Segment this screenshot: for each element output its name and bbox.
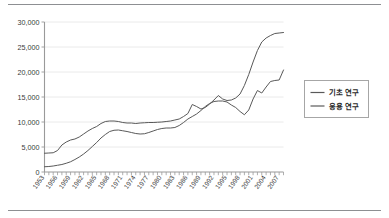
x-axis-tick-label: 1974 [122,174,136,190]
legend-label: 응용 연구 [329,102,360,111]
series-line [45,33,284,154]
x-axis-tick-label: 1977 [135,174,149,190]
x-axis-tick-label: 1956 [44,174,58,190]
y-axis-tick-label: 25,000 [18,43,40,52]
x-axis-tick-label: 1971 [109,174,123,190]
legend-label: 기초 연구 [329,88,360,97]
chart-legend: 기초 연구응용 연구 [305,81,369,118]
y-axis-tick-label: 30,000 [18,18,40,27]
chart-plot-wrapper: 05,00010,00015,00020,00025,00030,000 195… [0,0,389,218]
y-axis-tick-label: 20,000 [18,68,40,77]
legend-box [305,81,369,118]
y-axis-tick-label: 15,000 [18,93,40,102]
x-axis-tick-label: 1968 [96,174,110,190]
y-axis-labels-group: 05,00010,00015,00020,00025,00030,000 [18,18,40,177]
x-axis-tick-label: 1992 [201,174,215,190]
x-axis-tick-label: 1986 [175,174,189,190]
x-axis-tick-label: 1980 [148,174,162,190]
series-line [45,70,284,167]
x-axis-tick-label: 2001 [240,174,254,190]
x-axis-tick-label: 1995 [214,174,228,190]
x-axis-tick-label: 1953 [31,174,45,190]
x-axis-tick-label: 2007 [266,174,280,190]
y-axis-tick-label: 10,000 [18,118,40,127]
x-axis-tick-label: 1959 [57,174,71,190]
x-axis-tick-label: 2004 [253,174,267,190]
x-axis-tick-label: 1998 [227,174,241,190]
line-chart: 05,00010,00015,00020,00025,00030,000 195… [0,0,389,218]
x-axis-tick-label: 1983 [162,174,176,190]
x-axis-labels-group: 1953195619591962196519681971197419771980… [31,174,280,190]
x-axis-tick-label: 1965 [83,174,97,190]
figure-container: 05,00010,00015,00020,00025,00030,000 195… [0,0,389,218]
x-axis-tick-label: 1962 [70,174,84,190]
x-axis-ticks-group [42,22,284,175]
y-axis-tick-label: 5,000 [22,143,40,152]
x-axis-tick-label: 1989 [188,174,202,190]
